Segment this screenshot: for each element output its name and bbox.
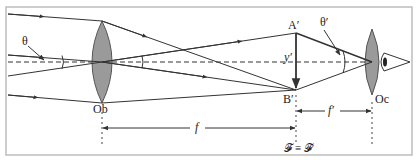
- ray-arrow: [8, 14, 42, 17]
- ray-cross-in: [8, 62, 102, 76]
- ray-bottom-out: [102, 90, 296, 103]
- ray-lower-out: [8, 103, 102, 110]
- label-objective: Ob: [93, 103, 108, 115]
- ray-arrow: [102, 62, 205, 77]
- label-theta-prime: θ′: [320, 16, 328, 28]
- eye-icon: [381, 53, 410, 71]
- label-f-prime: f′: [328, 104, 334, 116]
- label-b-prime: B′: [283, 93, 294, 105]
- objective-out-arc: [142, 56, 143, 68]
- theta-pointer: [28, 46, 44, 60]
- label-a-prime: A′: [288, 19, 299, 31]
- theta-prime-pointer: [324, 30, 340, 55]
- diagram-border: [6, 7, 412, 155]
- label-f: f: [195, 121, 198, 133]
- label-focal-equality: 𝓕 ≡ 𝓕′: [284, 143, 314, 154]
- label-eyepiece: Oc: [375, 93, 389, 105]
- ray-bprime-to-oc: [296, 62, 372, 90]
- ray-arrow: [8, 95, 36, 97]
- telescope-diagram: [0, 0, 417, 160]
- ray-arrow: [102, 21, 145, 36]
- label-theta: θ: [22, 35, 28, 47]
- ray-arrow: [102, 41, 240, 62]
- label-y-prime: y′: [284, 51, 292, 63]
- theta-angle-arc: [62, 56, 64, 70]
- ray-aprime-to-oc: [296, 33, 372, 62]
- ray-arrow: [8, 55, 42, 58]
